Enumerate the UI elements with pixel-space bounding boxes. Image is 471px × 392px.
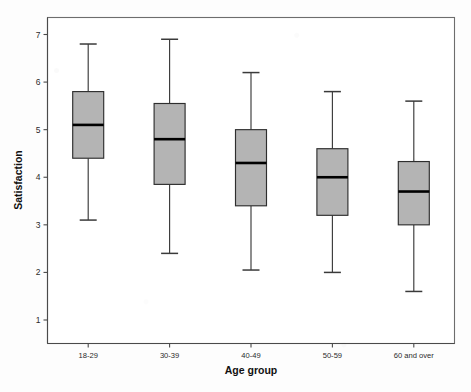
- y-axis-title: Satisfaction: [12, 150, 24, 210]
- y-tick-label: 2: [36, 267, 41, 277]
- iqr-box: [154, 103, 185, 184]
- boxplot-canvas: 1234567 18-2930-3940-4950-5960 and over …: [0, 0, 471, 392]
- iqr-box: [236, 130, 267, 206]
- x-tick-label: 40-49: [241, 351, 260, 360]
- x-tick-label: 60 and over: [394, 351, 435, 360]
- y-tick-label: 1: [36, 315, 41, 325]
- boxplot-chart: 1234567 18-2930-3940-4950-5960 and over …: [0, 0, 471, 392]
- y-tick-label: 4: [36, 172, 41, 182]
- y-tick-label: 3: [36, 220, 41, 230]
- x-tick-label: 50-59: [323, 351, 342, 360]
- y-tick-label: 5: [36, 125, 41, 135]
- x-tick-label: 30-39: [160, 351, 179, 360]
- x-axis-ticks: 18-2930-3940-4950-5960 and over: [78, 344, 434, 360]
- y-axis-ticks: 1234567: [36, 30, 48, 326]
- y-tick-label: 6: [36, 77, 41, 87]
- iqr-box: [317, 149, 348, 216]
- iqr-box: [398, 162, 429, 225]
- y-tick-label: 7: [36, 30, 41, 40]
- x-axis-title: Age group: [225, 364, 278, 376]
- x-tick-label: 18-29: [78, 351, 97, 360]
